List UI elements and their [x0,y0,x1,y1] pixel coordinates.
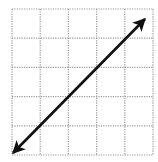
grid-diagram [0,0,158,162]
diagram-canvas [0,0,158,162]
